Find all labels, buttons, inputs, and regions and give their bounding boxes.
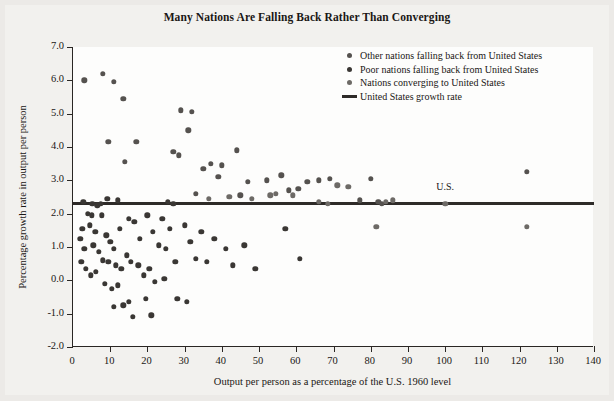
legend-label-poor: Poor nations falling back from United St…	[360, 64, 538, 75]
y-axis-tick	[67, 180, 73, 181]
data-point	[201, 166, 206, 171]
data-point	[241, 243, 246, 248]
data-point	[297, 256, 302, 261]
data-point	[150, 229, 155, 234]
y-axis-title: Percentage growth rate in output per per…	[17, 105, 28, 289]
data-point	[117, 226, 122, 231]
data-point	[173, 259, 178, 264]
data-point	[126, 299, 131, 304]
data-point	[78, 259, 83, 264]
data-point	[124, 253, 129, 258]
data-point	[108, 239, 113, 244]
legend-label-other: Other nations falling back from United S…	[360, 50, 542, 61]
data-point	[193, 256, 198, 261]
data-point	[188, 239, 193, 244]
legend-item-converging[interactable]: Nations converging to United States	[338, 76, 542, 90]
data-point	[91, 243, 96, 248]
data-point	[102, 281, 107, 286]
x-axis-tick	[110, 346, 111, 352]
data-point	[368, 176, 373, 181]
data-point	[87, 223, 92, 228]
data-point	[223, 246, 228, 251]
data-point	[346, 184, 351, 189]
x-axis-tick	[408, 346, 409, 352]
y-axis-title-container: Percentage growth rate in output per per…	[24, 47, 42, 347]
x-axis-tick	[482, 346, 483, 352]
data-point	[212, 236, 217, 241]
data-point	[253, 266, 258, 271]
legend-dot-icon	[338, 53, 360, 58]
y-axis-tick	[67, 347, 73, 348]
legend-item-other[interactable]: Other nations falling back from United S…	[338, 49, 542, 63]
data-point	[273, 191, 278, 196]
data-point	[208, 161, 213, 166]
data-point	[245, 179, 250, 184]
data-point	[184, 299, 189, 304]
data-point	[83, 266, 88, 271]
data-point	[111, 304, 116, 309]
data-point	[147, 266, 152, 271]
x-axis-tick-label: 10	[94, 355, 124, 366]
data-point	[78, 236, 83, 241]
data-point	[93, 229, 98, 234]
data-point	[141, 273, 146, 278]
y-axis-tick	[67, 114, 73, 115]
data-point	[163, 246, 168, 251]
data-point	[160, 216, 165, 221]
data-point	[105, 196, 110, 201]
data-point	[282, 226, 287, 231]
y-axis-tick	[67, 314, 73, 315]
x-axis-tick	[147, 346, 148, 352]
data-point	[137, 236, 142, 241]
data-point	[178, 108, 183, 113]
data-point	[109, 286, 114, 291]
legend-dot-icon	[338, 80, 360, 85]
x-axis-tick-label: 30	[169, 355, 199, 366]
data-point	[268, 193, 273, 198]
data-point	[115, 283, 120, 288]
data-point	[104, 233, 109, 238]
chart-title: Many Nations Are Falling Back Rather Tha…	[0, 11, 614, 23]
data-point	[119, 266, 124, 271]
data-point	[524, 224, 529, 229]
y-axis-tick	[67, 280, 73, 281]
data-point	[152, 279, 157, 284]
y-axis-tick-label: -1.0	[28, 307, 64, 318]
data-point	[227, 194, 232, 199]
us-growth-rate-line	[73, 202, 594, 205]
x-axis-tick-label: 100	[429, 355, 459, 366]
data-point	[335, 183, 340, 188]
data-point	[98, 201, 103, 206]
data-point	[199, 229, 204, 234]
data-point	[215, 174, 220, 179]
y-axis-tick-label: 3.0	[28, 173, 64, 184]
x-axis-tick-label: 20	[131, 355, 161, 366]
data-point	[100, 71, 105, 76]
x-axis-tick-label: 40	[206, 355, 236, 366]
legend-label-us-growth-rate: United States growth rate	[360, 91, 462, 102]
data-point	[249, 196, 254, 201]
data-point	[128, 259, 133, 264]
y-axis-tick-label: 4.0	[28, 140, 64, 151]
x-axis-tick-label: 60	[280, 355, 310, 366]
data-point	[174, 296, 179, 301]
data-point	[156, 243, 161, 248]
data-point	[143, 296, 148, 301]
legend-item-us-growth-rate[interactable]: United States growth rate	[338, 90, 542, 104]
y-axis-tick-label: 1.0	[28, 240, 64, 251]
legend-dot-icon	[338, 67, 360, 72]
data-point	[130, 314, 135, 319]
x-axis-tick	[445, 346, 446, 352]
data-point	[234, 148, 239, 153]
x-axis-tick-label: 120	[504, 355, 534, 366]
data-point	[295, 186, 300, 191]
data-point	[171, 149, 176, 154]
data-point	[100, 258, 105, 263]
data-point	[442, 201, 447, 206]
data-point	[305, 179, 310, 184]
data-point	[121, 303, 126, 308]
legend-item-poor[interactable]: Poor nations falling back from United St…	[338, 63, 542, 77]
y-axis-tick	[67, 247, 73, 248]
x-axis-tick-label: 80	[355, 355, 385, 366]
y-axis-tick	[67, 47, 73, 48]
